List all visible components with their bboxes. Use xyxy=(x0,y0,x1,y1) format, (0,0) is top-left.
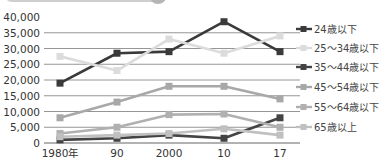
y-tick-label: 5,000 xyxy=(10,121,40,133)
data-point-marker xyxy=(221,83,228,90)
legend-label: 24歳以下 xyxy=(314,24,357,35)
y-tick-label: 35,000 xyxy=(3,27,40,39)
y-tick-label: 15,000 xyxy=(3,90,40,102)
y-tick-label: 10,000 xyxy=(3,106,40,118)
x-tick-label: 2000 xyxy=(156,147,183,159)
data-point-marker xyxy=(277,114,284,121)
data-point-marker xyxy=(57,53,64,60)
y-tick-label: 25,000 xyxy=(3,58,40,70)
data-point-marker xyxy=(166,36,173,43)
series-3 xyxy=(57,114,284,143)
data-point-marker xyxy=(166,111,173,118)
data-point-marker xyxy=(114,124,121,131)
legend-swatch-marker xyxy=(301,26,307,32)
line-chart: 40,00035,00030,00025,00020,00015,00010,0… xyxy=(0,0,385,166)
data-point-marker xyxy=(221,18,228,25)
data-point-marker xyxy=(57,80,64,87)
y-tick-label: 30,000 xyxy=(3,43,40,55)
data-point-marker xyxy=(221,125,228,132)
x-tick-label: 17 xyxy=(273,147,286,159)
data-point-marker xyxy=(114,132,121,139)
legend-swatch-marker xyxy=(301,64,307,70)
y-tick-label: 0 xyxy=(33,137,40,149)
data-point-marker xyxy=(277,32,284,39)
x-tick-label: 1980年 xyxy=(42,147,79,159)
data-point-marker xyxy=(57,114,64,121)
y-tick-label: 40,000 xyxy=(3,11,40,23)
data-point-marker xyxy=(221,135,228,142)
legend-item: 65歳以上 xyxy=(296,122,357,133)
data-point-marker xyxy=(166,48,173,55)
data-point-marker xyxy=(277,132,284,139)
series-1 xyxy=(57,18,284,86)
data-point-marker xyxy=(114,50,121,57)
data-point-marker xyxy=(57,133,64,140)
legend-item: 24歳以下 xyxy=(296,24,357,35)
legend-label: 65歳以上 xyxy=(314,122,357,133)
legend-item: 35〜44歳以下 xyxy=(296,62,379,73)
data-point-marker xyxy=(166,83,173,90)
legend-item: 55〜64歳以下 xyxy=(296,102,379,113)
legend-label: 35〜44歳以下 xyxy=(314,62,379,73)
legend-swatch-marker xyxy=(301,45,307,51)
data-point-marker xyxy=(221,50,228,57)
legend-label: 55〜64歳以下 xyxy=(314,102,379,113)
data-point-marker xyxy=(114,67,121,74)
data-point-marker xyxy=(277,124,284,131)
data-point-marker xyxy=(277,48,284,55)
legend-item: 25〜34歳以下 xyxy=(296,43,379,54)
legend-swatch-marker xyxy=(301,84,307,90)
data-point-marker xyxy=(221,111,228,118)
legend-swatch-marker xyxy=(301,124,307,130)
data-point-marker xyxy=(166,130,173,137)
legend-swatch-marker xyxy=(301,104,307,110)
x-tick-label: 90 xyxy=(110,147,123,159)
y-tick-label: 20,000 xyxy=(3,74,40,86)
legend-label: 25〜34歳以下 xyxy=(314,43,379,54)
data-point-marker xyxy=(114,99,121,106)
legend-item: 45〜54歳以下 xyxy=(296,82,379,93)
data-point-marker xyxy=(277,95,284,102)
legend-label: 45〜54歳以下 xyxy=(314,82,379,93)
x-tick-label: 10 xyxy=(217,147,230,159)
